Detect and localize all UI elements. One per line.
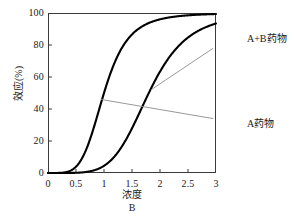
x-tick-label-2: 2 xyxy=(145,179,175,189)
leader-line-a xyxy=(101,99,214,118)
x-tick-label-3: 3 xyxy=(201,179,231,189)
x-axis-title-sub: B xyxy=(48,202,216,213)
annotation-leader-lines xyxy=(101,48,214,118)
x-tick-label-1.5: 1.5 xyxy=(117,179,147,189)
y-tick-label-100: 100 xyxy=(0,8,44,18)
curve-a-plus-b xyxy=(48,14,216,173)
y-tick-label-0: 0 xyxy=(0,168,44,178)
curve-a xyxy=(48,24,216,174)
series-label-a: A药物 xyxy=(247,118,274,129)
x-tick-label-2.5: 2.5 xyxy=(173,179,203,189)
x-axis-title: 浓度 xyxy=(48,189,216,200)
x-tick-label-1: 1 xyxy=(89,179,119,189)
chart-figure: 020406080100 00.511.522.53 效应(%) 浓度 B A+… xyxy=(0,0,294,223)
y-axis-title: 效应(%) xyxy=(13,54,24,114)
x-tick-label-0.5: 0.5 xyxy=(61,179,91,189)
y-tick-label-80: 80 xyxy=(0,40,44,50)
x-tick-label-0: 0 xyxy=(33,179,63,189)
curves-group xyxy=(48,14,216,173)
y-tick-label-20: 20 xyxy=(0,136,44,146)
series-label-a-plus-b: A+B药物 xyxy=(247,33,287,44)
